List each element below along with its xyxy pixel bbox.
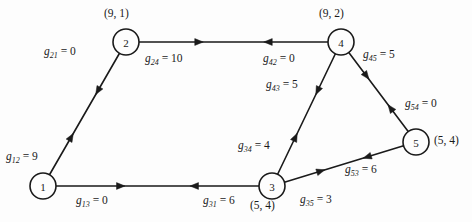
edge-weight-subscript: 45	[369, 54, 377, 63]
edge-weight-symbol: g	[266, 78, 272, 90]
edge-weight-symbol: g	[145, 52, 151, 64]
edge-weight-value: = 5	[280, 78, 298, 90]
edge-weight-subscript: 12	[12, 156, 20, 165]
edge-weight-value: = 5	[377, 48, 395, 60]
node-coordinate-3: (5, 4)	[250, 199, 275, 211]
edge-weight-subscript: 21	[50, 51, 58, 60]
edge-weight-g24: g24 = 10	[145, 52, 183, 64]
edge-weight-subscript: 54	[411, 103, 419, 112]
edge-4-5	[349, 52, 408, 131]
graph-canvas: 12345	[0, 0, 472, 222]
directed-graph-figure: 12345 (9, 1)(5, 4)(9, 2)(5, 4) g12 = 9g2…	[0, 0, 472, 222]
edge-weight-symbol: g	[238, 139, 244, 151]
edge-3-5	[284, 146, 403, 182]
edge-weight-value: = 0	[58, 45, 76, 57]
edge-weight-value: = 6	[217, 194, 235, 206]
edge-weight-value: = 0	[277, 52, 295, 64]
edge-weight-g35: g35 = 3	[300, 193, 332, 205]
node-label-5: 5	[413, 137, 419, 149]
edge-weight-g21: g21 = 0	[44, 45, 76, 57]
edge-weight-value: = 4	[252, 139, 270, 151]
node-label-1: 1	[40, 181, 46, 193]
edge-weight-value: = 0	[419, 97, 437, 109]
graph-node-2[interactable]: 2	[113, 29, 139, 55]
node-coordinate-4: (9, 2)	[319, 7, 344, 19]
edge-weight-value: = 9	[20, 150, 38, 162]
edge-1-2-arrow-forward	[66, 133, 73, 142]
edge-weight-g31: g31 = 6	[203, 194, 235, 206]
graph-node-1[interactable]: 1	[30, 173, 56, 199]
edge-3-4-arrow-forward	[291, 133, 298, 142]
edge-3-4-arrow-reverse	[316, 86, 323, 95]
edge-1-2	[49, 53, 119, 174]
edge-4-5-arrow-forward	[361, 70, 369, 79]
edge-3-5-arrow-forward	[316, 169, 325, 176]
node-label-3: 3	[269, 181, 275, 193]
edge-weight-subscript: 24	[151, 58, 159, 67]
edge-weight-g53: g53 = 6	[345, 163, 377, 175]
edge-weight-symbol: g	[345, 163, 351, 175]
edge-weight-subscript: 53	[351, 169, 359, 178]
edge-weight-value: = 6	[359, 163, 377, 175]
edge-weight-subscript: 31	[209, 200, 217, 209]
edge-1-3-arrow-reverse	[190, 183, 199, 190]
edge-weight-subscript: 43	[272, 84, 280, 93]
edge-weight-symbol: g	[44, 45, 50, 57]
edge-weight-g54: g54 = 0	[405, 97, 437, 109]
graph-node-3[interactable]: 3	[259, 173, 285, 199]
edge-weight-g12: g12 = 9	[6, 150, 38, 162]
edge-weight-g34: g34 = 4	[238, 139, 270, 151]
graph-node-4[interactable]: 4	[328, 29, 354, 55]
edge-weight-g43: g43 = 5	[266, 78, 298, 90]
edge-weight-subscript: 13	[82, 200, 90, 209]
edge-3-4	[278, 54, 336, 175]
edge-weight-symbol: g	[363, 48, 369, 60]
edge-weight-g13: g13 = 0	[76, 194, 108, 206]
edge-weight-value: = 3	[314, 193, 332, 205]
node-label-4: 4	[338, 37, 344, 49]
edge-weight-symbol: g	[76, 194, 82, 206]
edge-weight-g42: g42 = 0	[263, 52, 295, 64]
edge-weight-subscript: 34	[244, 145, 252, 154]
edge-weight-value: = 10	[159, 52, 183, 64]
edge-weight-symbol: g	[203, 194, 209, 206]
graph-node-5[interactable]: 5	[403, 129, 429, 155]
edge-1-2-arrow-reverse	[96, 86, 103, 95]
node-label-2: 2	[123, 37, 129, 49]
edge-weight-subscript: 42	[269, 58, 277, 67]
edge-4-5-arrow-reverse	[388, 105, 396, 114]
node-coordinate-5: (5, 4)	[434, 134, 459, 146]
edge-weight-symbol: g	[6, 150, 12, 162]
edge-weight-g45: g45 = 5	[363, 48, 395, 60]
edge-weight-symbol: g	[300, 193, 306, 205]
edge-weight-symbol: g	[405, 97, 411, 109]
node-coordinate-2: (9, 1)	[104, 7, 129, 19]
edge-3-5-arrow-reverse	[363, 152, 372, 159]
edge-weight-symbol: g	[263, 52, 269, 64]
edge-weight-value: = 0	[90, 194, 108, 206]
edge-weight-subscript: 35	[306, 199, 314, 208]
edge-2-4-arrow-forward	[195, 39, 204, 46]
edge-1-3-arrow-forward	[117, 183, 126, 190]
edge-2-4-arrow-reverse	[264, 39, 273, 46]
